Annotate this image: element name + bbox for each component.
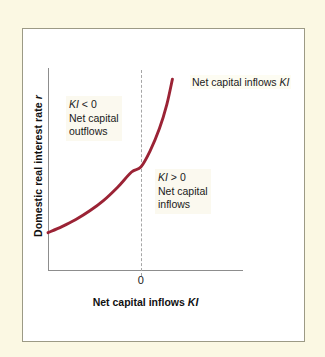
- annotation-inflows-line3: inflows: [158, 198, 208, 212]
- annotation-outflows-symbol: KI: [69, 98, 79, 110]
- y-axis-label-text: Domestic real interest rate: [32, 99, 44, 237]
- annotation-net-capital-outflows: KI < 0 Net capital outflows: [66, 96, 122, 141]
- y-axis-label: Domestic real interest rate r: [32, 66, 44, 266]
- x-axis-label-text: Net capital inflows: [93, 296, 188, 308]
- annotation-net-capital-inflows: KI > 0 Net capital inflows: [155, 169, 211, 214]
- annotation-inflows-line1: KI > 0: [158, 171, 208, 185]
- y-axis-label-symbol: r: [32, 95, 44, 99]
- annotation-inflows-line2: Net capital: [158, 185, 208, 199]
- figure-root: Domestic real interest rate r Net capita…: [0, 0, 325, 357]
- annotation-outflows-line2: Net capital: [69, 112, 119, 126]
- annotation-inflows-comparison: > 0: [168, 171, 186, 183]
- annotation-outflows-comparison: < 0: [79, 98, 97, 110]
- curve-label: Net capital inflows KI: [190, 75, 291, 89]
- x-axis-zero-tick-label: 0: [129, 274, 153, 286]
- x-axis-label: Net capital inflows KI: [48, 296, 243, 308]
- curve-label-symbol: KI: [280, 76, 290, 88]
- annotation-outflows-line1: KI < 0: [69, 98, 119, 112]
- annotation-outflows-line3: outflows: [69, 125, 119, 139]
- x-axis-label-symbol: KI: [188, 296, 199, 308]
- curve-label-text: Net capital inflows: [192, 76, 280, 88]
- annotation-inflows-symbol: KI: [158, 171, 168, 183]
